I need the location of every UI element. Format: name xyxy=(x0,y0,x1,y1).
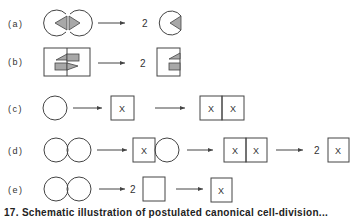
circle-left xyxy=(44,138,68,162)
x-mark: X xyxy=(230,104,236,114)
x-mark: X xyxy=(208,104,214,114)
x-mark: X xyxy=(119,104,125,114)
row-a: (a) 2 xyxy=(8,10,181,36)
multiplier: 2 xyxy=(314,145,320,156)
row-label-c: (c) xyxy=(8,104,23,114)
rect xyxy=(157,48,180,76)
row-c: (c) X X X xyxy=(8,96,244,120)
empty-square xyxy=(143,177,165,201)
multiplier: 2 xyxy=(140,58,146,69)
wedge-lower-right-icon xyxy=(67,63,78,70)
circle-right xyxy=(67,138,91,162)
wedge-icon xyxy=(170,16,181,30)
wedge-right-icon xyxy=(69,16,80,30)
circle-right xyxy=(67,177,91,201)
x-mark: X xyxy=(218,186,224,196)
x-mark: X xyxy=(253,146,259,156)
multiplier: 2 xyxy=(142,18,148,29)
diagram-canvas: (a) 2 (b) 2 xyxy=(0,0,360,221)
two-circles-with-wedges xyxy=(44,10,93,36)
single-circle-with-wedge xyxy=(159,11,181,35)
multiplier: 2 xyxy=(130,184,136,195)
x-mark: X xyxy=(141,146,147,156)
row-e: (e) 2 X xyxy=(8,177,232,202)
block-icon xyxy=(169,63,180,70)
wedge-upper-left-icon xyxy=(56,54,67,60)
row-b: (b) 2 xyxy=(8,48,180,76)
row-d: (d) X X X 2 X xyxy=(8,138,349,162)
figure-caption: 17. Schematic illustration of postulated… xyxy=(4,207,328,218)
single-rect-with-shapes xyxy=(157,48,180,76)
circle-left xyxy=(44,177,68,201)
circle xyxy=(43,96,67,120)
block-lower-left-icon xyxy=(55,63,67,70)
double-rect-with-shapes xyxy=(44,48,90,76)
x-mark: X xyxy=(232,146,238,156)
wedge-icon xyxy=(169,53,180,59)
circle xyxy=(155,138,179,162)
block-upper-right-icon xyxy=(67,54,79,61)
x-mark: X xyxy=(335,146,341,156)
row-label-b: (b) xyxy=(8,57,24,67)
wedge-left-icon xyxy=(55,16,67,30)
row-label-d: (d) xyxy=(8,146,24,156)
row-label-e: (e) xyxy=(8,185,24,195)
row-label-a: (a) xyxy=(8,19,24,29)
